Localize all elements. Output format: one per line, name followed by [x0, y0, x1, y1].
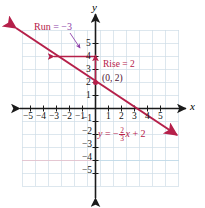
y-tick-label-2: 2: [86, 78, 91, 88]
y-tick-label--1: −1: [82, 114, 92, 124]
x-tick-label-3: 3: [132, 112, 137, 122]
x-tick-label-4: 4: [145, 112, 150, 122]
x-tick-label--3: −3: [49, 112, 59, 122]
y-intercept-point: [93, 80, 98, 85]
run-annotation-prefix: Run: [34, 21, 51, 32]
y-tick-label--5: −5: [82, 166, 92, 176]
equation-fraction: 23: [119, 127, 125, 143]
point-label-0-2: (0, 2): [102, 74, 123, 84]
rise-annotation: Rise = 2: [103, 60, 135, 70]
y-tick-label-4: 4: [86, 52, 91, 62]
equation-variable: x: [125, 128, 129, 139]
run-annotation-equals: =: [53, 21, 59, 32]
y-tick-label--2: −2: [82, 127, 92, 137]
x-tick-label-2: 2: [119, 112, 124, 122]
y-axis-label: y: [92, 2, 97, 13]
x-tick-label--2: −2: [62, 112, 72, 122]
x-tick-label-1: 1: [106, 112, 111, 122]
coordinate-plane: [0, 0, 205, 208]
run-leader-line: [70, 33, 80, 48]
equation-tail: + 2: [132, 128, 145, 139]
run-annotation: Run = −3: [34, 22, 72, 32]
equation-equals: =: [105, 128, 111, 139]
graph-screenshot: y x −5 −4 −3 −2 −1 1 2 3 4 5 5 4 3 2 1 −…: [0, 0, 205, 208]
x-tick-label-5: 5: [158, 112, 163, 122]
equation-denominator: 3: [119, 135, 125, 143]
equation-label: y = −23x + 2: [98, 127, 146, 143]
x-tick-label--4: −4: [36, 112, 46, 122]
y-tick-label-1: 1: [86, 91, 91, 101]
run-annotation-value: −3: [61, 21, 72, 32]
equation-minus: −: [113, 128, 119, 139]
y-tick-label--4: −4: [82, 153, 92, 163]
equation-lhs: y: [98, 128, 102, 139]
y-tick-label-3: 3: [86, 65, 91, 75]
x-tick-label--5: −5: [23, 112, 33, 122]
x-axis-label: x: [190, 101, 195, 112]
y-tick-label-5: 5: [86, 39, 91, 49]
y-tick-label--3: −3: [82, 140, 92, 150]
